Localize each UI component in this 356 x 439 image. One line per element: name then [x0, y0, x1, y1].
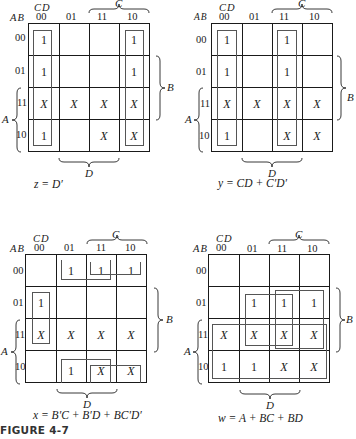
kmap-w: CD AB 00 01 11 10 C 00 01 11 10 A B D 1 …: [178, 231, 356, 431]
row-label-00: 00: [15, 32, 26, 43]
d-brace-label: D: [85, 167, 93, 179]
a-brace-label: A: [184, 345, 191, 357]
col-label-00: 00: [36, 11, 47, 22]
col-label-01: 01: [64, 242, 75, 253]
b-brace-icon: [153, 287, 165, 353]
a-brace-icon: [191, 319, 203, 385]
row-label-01: 01: [15, 65, 26, 76]
row-label-01: 01: [196, 297, 207, 308]
cell-r2-c1: X: [242, 88, 272, 120]
expression-x: x = B′C + B′D + BC′D′: [33, 409, 142, 421]
row-label-00: 00: [196, 34, 207, 45]
row-label-00: 00: [13, 265, 24, 276]
col-label-00: 00: [34, 242, 45, 253]
c-brace-label: C: [112, 228, 119, 240]
kmap-grid: 1 1 1 1 X X X X 1 X X: [28, 23, 150, 152]
c-brace-label: C: [298, 0, 305, 9]
figure-caption: FIGURE 4-7: [0, 424, 69, 436]
kmap-grid: 1 1 1 1 X X X X 1 X X: [25, 254, 147, 383]
a-brace-icon: [192, 87, 204, 153]
col-label-01: 01: [66, 11, 77, 22]
col-label-00: 00: [216, 242, 227, 253]
group-col11: [277, 30, 297, 146]
b-brace-label: B: [166, 313, 173, 325]
kmap-grid: 1 1 1 1 X X X X 1 X X: [211, 23, 333, 152]
kmap-y: CD AB 00 01 11 10 C 00 01 11 10 A B D 1 …: [178, 0, 356, 200]
a-brace-label: A: [185, 113, 192, 125]
expression-z: z = D′: [34, 178, 63, 190]
group-bpc-top: [90, 262, 141, 275]
c-brace-label: C: [115, 0, 122, 9]
row-label-00: 00: [196, 265, 207, 276]
row-var-label: AB: [194, 12, 208, 22]
group-bcpdp: [32, 292, 50, 344]
col-label-01: 01: [249, 11, 260, 22]
cell-r2-c2: X: [89, 88, 119, 120]
b-brace-label: B: [167, 81, 174, 93]
cell-r3-c3: X: [302, 120, 332, 152]
a-brace-label: A: [1, 345, 8, 357]
row-label-01: 01: [13, 297, 24, 308]
cell-r2-c3: X: [116, 319, 146, 351]
kmap-z: CD AB 00 01 11 10 C 00 01 11 10 A B D 1 …: [0, 0, 178, 200]
b-brace-label: B: [347, 91, 354, 103]
row-var-label: AB: [10, 243, 25, 254]
cell-r2-c1: X: [56, 319, 86, 351]
expression-y: y = CD + C′D′: [218, 177, 287, 189]
row-var-label: AB: [10, 12, 25, 23]
cell-r2-c2: X: [86, 319, 116, 351]
a-brace-icon: [9, 319, 21, 385]
b-brace-icon: [155, 55, 167, 121]
expression-w: w = A + BC + BD: [218, 412, 303, 424]
b-brace-label: B: [346, 313, 353, 325]
col-label-01: 01: [247, 243, 258, 254]
cell-r2-c3: X: [302, 88, 332, 120]
group-bpc-bottom: [90, 365, 141, 383]
col-label-00: 00: [219, 11, 230, 22]
c-brace-label: C: [295, 228, 302, 240]
group-col10: [125, 30, 144, 146]
a-brace-icon: [10, 87, 22, 153]
d-brace-label: D: [266, 399, 274, 411]
cell-r2-c1: X: [59, 88, 89, 120]
kmap-x: CD AB 00 01 11 10 C 00 01 11 10 A B D 1 …: [0, 231, 178, 431]
cell-r3-c2: X: [89, 120, 119, 152]
row-label-01: 01: [196, 66, 207, 77]
a-brace-label: A: [2, 113, 9, 125]
group-a: [212, 324, 327, 379]
row-var-label: AB: [193, 243, 208, 254]
group-col00: [33, 30, 52, 146]
kmap-grid: 1 1 1 X X X X 1 1 X X: [208, 254, 330, 383]
b-brace-icon: [336, 55, 348, 121]
group-col00: [217, 30, 237, 146]
